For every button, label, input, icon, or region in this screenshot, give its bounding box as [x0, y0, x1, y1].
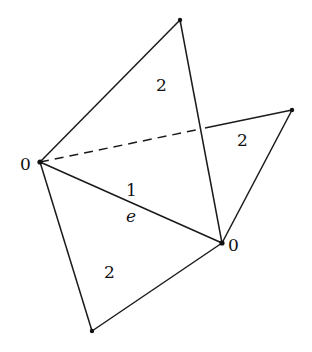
vertex-top	[178, 18, 182, 22]
vertex-left-label: 0	[20, 154, 31, 174]
vertex-mid	[219, 240, 224, 245]
face-bottom-label: 2	[104, 262, 115, 282]
edge-top-mid	[180, 20, 222, 243]
edge-left-right-visible	[205, 110, 292, 128]
vertex-right	[290, 108, 294, 112]
vertex-mid-label: 0	[228, 235, 239, 255]
edge-name-label: e	[126, 206, 136, 226]
edge-left-bottom	[40, 162, 92, 331]
edge-weight-label: 1	[126, 180, 137, 200]
face-top-label: 2	[156, 75, 167, 95]
edge-left-right-hidden	[40, 130, 196, 162]
diagram-canvas: 0 0 2 2 2 1 e	[0, 0, 312, 352]
edge-mid-right	[222, 110, 292, 243]
face-right-label: 2	[237, 130, 248, 150]
vertex-left	[37, 159, 42, 164]
edge-e	[40, 162, 222, 243]
edge-bottom-mid	[92, 243, 222, 331]
vertex-bottom	[90, 329, 94, 333]
